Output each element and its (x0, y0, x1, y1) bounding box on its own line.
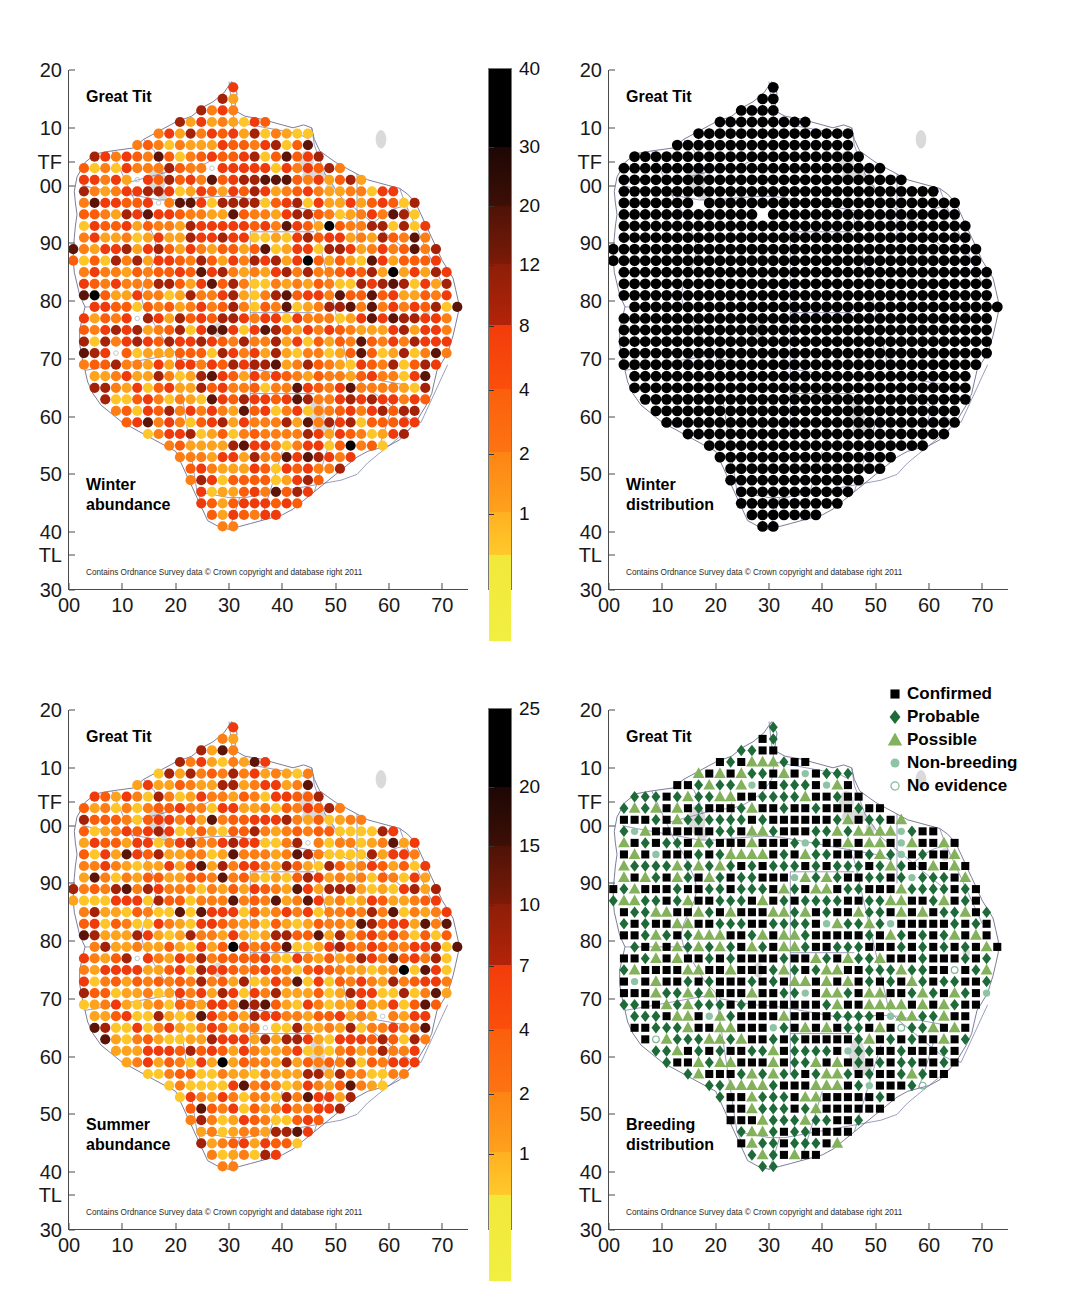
colorbar-tick (489, 1154, 494, 1155)
summer-abundance-ytick-7: 60 (40, 1045, 69, 1068)
breeding-distribution-xtick-4: 40 (811, 1229, 833, 1257)
legend-label: Non-breeding (907, 753, 1018, 773)
summer-abundance-xtick-5: 50 (325, 1229, 347, 1257)
colorbar-tick (489, 846, 494, 847)
winter-abundance-xtick-5: 50 (325, 589, 347, 617)
winter-abundance-colorbar-band-4 (489, 325, 511, 388)
breeding-distribution-ytick-6: 70 (580, 987, 609, 1010)
summer-abundance-colorbar-label-0: 25 (511, 698, 540, 720)
winter-abundance-ytick-0: 20 (40, 59, 69, 82)
summer-abundance-colorbar-label-5: 4 (511, 1019, 530, 1041)
winter-distribution-ytick-10: TL (579, 544, 609, 567)
filled-triangle-icon (885, 732, 905, 748)
winter-distribution-xtick-6: 60 (918, 589, 940, 617)
winter-abundance-colorbar-band-1 (489, 147, 511, 206)
summer-abundance-colorbar-band-3 (489, 904, 511, 965)
colorbar-tick (489, 905, 494, 906)
winter-abundance-ytick-7: 60 (40, 405, 69, 428)
winter-abundance-colorbar-label-0: 40 (511, 58, 540, 80)
breeding-distribution-xtick-7: 70 (971, 1229, 993, 1257)
winter-distribution-ytick-9: 40 (580, 521, 609, 544)
breeding-distribution-attribution: Contains Ordnance Survey data © Crown co… (626, 1208, 902, 1217)
winter-distribution-ytick-7: 60 (580, 405, 609, 428)
summer-abundance-ytick-2: TF (38, 791, 69, 814)
winter-distribution-caption: Winterdistribution (626, 475, 714, 515)
summer-abundance-xtick-3: 30 (218, 1229, 240, 1257)
winter-abundance-ytick-1: 10 (40, 116, 69, 139)
winter-abundance-xtick-6: 60 (378, 589, 400, 617)
winter-abundance-colorbar-band-7 (489, 512, 511, 555)
winter-distribution-ytick-8: 50 (580, 463, 609, 486)
colorbar-tick (489, 147, 494, 148)
summer-abundance-colorbar-label-3: 10 (511, 894, 540, 916)
winter-abundance-xtick-3: 30 (218, 589, 240, 617)
breeding-distribution-xtick-2: 20 (705, 1229, 727, 1257)
summer-abundance-xtick-1: 10 (111, 1229, 133, 1257)
legend-item-diamond[interactable]: Probable (885, 705, 1018, 728)
filled-circle-icon (885, 755, 905, 771)
winter-distribution-ytick-0: 20 (580, 59, 609, 82)
summer-abundance-xtick-2: 20 (165, 1229, 187, 1257)
summer-abundance-colorbar-label-4: 7 (511, 955, 530, 977)
summer-abundance-colorbar: 252015107421 (488, 708, 512, 1230)
summer-abundance-colorbar-label-1: 20 (511, 776, 540, 798)
breeding-distribution-caption-line2: distribution (626, 1135, 714, 1155)
summer-abundance-ytick-1: 10 (40, 756, 69, 779)
winter-distribution-xtick-4: 40 (811, 589, 833, 617)
legend-item-open-circle[interactable]: No evidence (885, 774, 1018, 797)
summer-abundance-caption: Summerabundance (86, 1115, 170, 1155)
breeding-distribution-ytick-4: 90 (580, 872, 609, 895)
winter-abundance-xtick-7: 70 (431, 589, 453, 617)
legend-item-triangle[interactable]: Possible (885, 728, 1018, 751)
breeding-distribution-ytick-2: TF (578, 791, 609, 814)
summer-abundance-colorbar-band-0 (489, 709, 511, 787)
colorbar-tick (489, 326, 494, 327)
summer-abundance-colorbar-band-4 (489, 965, 511, 1028)
summer-abundance-colorbar-band-6 (489, 1092, 511, 1152)
summer-abundance-colorbar-band-8 (489, 1195, 511, 1281)
summer-abundance-ytick-10: TL (39, 1184, 69, 1207)
winter-distribution-xtick-7: 70 (971, 589, 993, 617)
winter-abundance-colorbar-label-4: 8 (511, 315, 530, 337)
winter-abundance-colorbar-label-7: 1 (511, 503, 530, 525)
winter-abundance-ytick-2: TF (38, 151, 69, 174)
breeding-distribution-caption: Breedingdistribution (626, 1115, 714, 1155)
summer-abundance-ytick-5: 80 (40, 930, 69, 953)
winter-abundance-ytick-5: 80 (40, 290, 69, 313)
colorbar-tick (489, 206, 494, 207)
summer-abundance-colorbar-band-1 (489, 787, 511, 846)
winter-distribution-caption-line2: distribution (626, 495, 714, 515)
breeding-distribution-xtick-5: 50 (865, 1229, 887, 1257)
winter-distribution-ytick-3: 00 (580, 174, 609, 197)
breeding-distribution-xtick-0: 00 (598, 1229, 620, 1257)
winter-abundance-title: Great Tit (86, 88, 152, 106)
summer-abundance-xtick-7: 70 (431, 1229, 453, 1257)
winter-abundance-attribution: Contains Ordnance Survey data © Crown co… (86, 568, 362, 577)
winter-abundance-ytick-3: 00 (40, 174, 69, 197)
breeding-distribution-xtick-3: 30 (758, 1229, 780, 1257)
summer-abundance-attribution: Contains Ordnance Survey data © Crown co… (86, 1208, 362, 1217)
winter-abundance-caption-line1: Winter (86, 475, 170, 495)
winter-abundance-caption-line2: abundance (86, 495, 170, 515)
breeding-distribution-ytick-0: 20 (580, 699, 609, 722)
legend-item-square[interactable]: Confirmed (885, 682, 1018, 705)
winter-abundance-colorbar-band-3 (489, 264, 511, 325)
summer-abundance-ytick-8: 50 (40, 1103, 69, 1126)
breeding-distribution-ytick-9: 40 (580, 1161, 609, 1184)
winter-distribution-ytick-2: TF (578, 151, 609, 174)
summer-abundance-colorbar-band-5 (489, 1029, 511, 1092)
breeding-legend: ConfirmedProbablePossibleNon-breedingNo … (885, 682, 1018, 797)
legend-label: Probable (907, 707, 980, 727)
legend-label: Possible (907, 730, 977, 750)
winter-abundance-colorbar-band-6 (489, 452, 511, 512)
colorbar-tick (489, 390, 494, 391)
winter-distribution-ytick-1: 10 (580, 116, 609, 139)
panel-breeding-distribution: 2010TF00908070605040TL300010203040506070… (540, 620, 1069, 1300)
winter-abundance-caption: Winterabundance (86, 475, 170, 515)
legend-item-circle[interactable]: Non-breeding (885, 751, 1018, 774)
colorbar-tick (489, 265, 494, 266)
winter-distribution-xtick-0: 00 (598, 589, 620, 617)
breeding-distribution-ytick-5: 80 (580, 930, 609, 953)
summer-abundance-colorbar-band-7 (489, 1152, 511, 1195)
summer-abundance-caption-line1: Summer (86, 1115, 170, 1135)
